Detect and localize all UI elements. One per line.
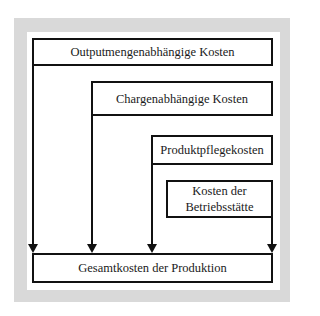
box-label: Outputmengenabhängige Kosten [70, 44, 234, 60]
arrow-down-icon [147, 244, 157, 253]
box-kosten-der-betriebsstaette: Kosten der Betriebsstätte [166, 180, 273, 218]
arrow-down-icon [87, 244, 97, 253]
connector-produktpflege [151, 163, 153, 245]
box-label: Produktpflegekosten [160, 142, 263, 158]
box-chargenabhaengige-kosten: Chargenabhängige Kosten [91, 81, 273, 116]
connector-outputmengen [32, 64, 34, 245]
box-produktpflegekosten: Produktpflegekosten [151, 135, 273, 165]
box-label-line2: Betriebsstätte [185, 199, 253, 215]
arrow-down-icon [28, 244, 38, 253]
connector-betriebsstaette [271, 216, 273, 245]
connector-chargen [91, 114, 93, 245]
box-label: Gesamtkosten der Produktion [78, 260, 227, 276]
box-gesamtkosten-der-produktion: Gesamtkosten der Produktion [32, 253, 273, 283]
arrow-down-icon [267, 244, 277, 253]
box-label: Chargenabhängige Kosten [116, 91, 248, 107]
box-outputmengenabhaengige-kosten: Outputmengenabhängige Kosten [32, 38, 273, 66]
box-label-line1: Kosten der [192, 183, 247, 199]
